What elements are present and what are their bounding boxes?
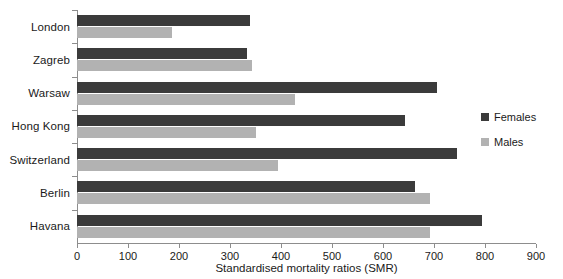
x-axis-tick-label: 900 — [527, 250, 545, 262]
x-axis-tick — [434, 244, 435, 248]
x-axis-tick — [128, 244, 129, 248]
bar-males-warsaw — [77, 94, 295, 105]
bar-males-hong-kong — [77, 127, 256, 138]
bar-females-london — [77, 15, 250, 26]
x-axis-tick — [281, 244, 282, 248]
x-axis-tick — [485, 244, 486, 248]
category-label: Hong Kong — [12, 120, 70, 132]
category-label: Warsaw — [28, 87, 70, 99]
y-axis-tick — [72, 10, 77, 11]
legend-item-females: Females — [481, 111, 559, 123]
x-axis-tick-label: 200 — [170, 250, 188, 262]
y-axis-tick — [72, 210, 77, 211]
x-axis-tick — [383, 244, 384, 248]
y-axis-tick — [72, 143, 77, 144]
category-label: Berlin — [40, 187, 70, 199]
legend-item-males: Males — [481, 136, 559, 148]
category-label: London — [31, 21, 70, 33]
y-axis-tick — [72, 77, 77, 78]
x-axis-tick-label: 500 — [323, 250, 341, 262]
y-axis-tick — [72, 110, 77, 111]
x-axis-tick — [179, 244, 180, 248]
category-label: Zagreb — [33, 54, 70, 66]
y-axis-tick — [72, 43, 77, 44]
x-axis-tick-label: 700 — [425, 250, 443, 262]
bar-males-london — [77, 27, 172, 38]
x-axis-tick-label: 800 — [476, 250, 494, 262]
bar-males-switzerland — [77, 160, 278, 171]
bar-females-hong-kong — [77, 115, 405, 126]
bar-females-havana — [77, 215, 482, 226]
category-row: Havana — [77, 210, 536, 243]
bar-chart: LondonZagrebWarsawHong KongSwitzerlandBe… — [0, 0, 563, 279]
x-axis-tick — [77, 244, 78, 248]
legend-label-males: Males — [494, 136, 523, 148]
category-row: London — [77, 10, 536, 43]
bar-females-warsaw — [77, 82, 437, 93]
legend-label-females: Females — [494, 111, 536, 123]
category-row: Warsaw — [77, 77, 536, 110]
category-row: Berlin — [77, 176, 536, 209]
bar-males-zagreb — [77, 60, 252, 71]
x-axis-tick-label: 600 — [374, 250, 392, 262]
category-label: Havana — [30, 220, 70, 232]
x-axis-title: Standardised mortality ratios (SMR) — [77, 262, 536, 274]
category-row: Zagreb — [77, 43, 536, 76]
category-row: Switzerland — [77, 143, 536, 176]
bar-males-havana — [77, 227, 430, 238]
x-axis-tick — [536, 244, 537, 248]
x-axis-tick-label: 400 — [272, 250, 290, 262]
category-row: Hong Kong — [77, 110, 536, 143]
x-axis-tick — [230, 244, 231, 248]
legend: Females Males — [481, 111, 559, 161]
legend-swatch-males-icon — [481, 138, 489, 146]
x-axis-tick-label: 100 — [119, 250, 137, 262]
bar-females-zagreb — [77, 48, 247, 59]
category-label: Switzerland — [9, 154, 70, 166]
bar-males-berlin — [77, 193, 430, 204]
bar-females-berlin — [77, 181, 415, 192]
x-axis-tick-label: 300 — [221, 250, 239, 262]
legend-swatch-females-icon — [481, 113, 489, 121]
x-axis-tick — [332, 244, 333, 248]
x-axis-tick-label: 0 — [74, 250, 80, 262]
plot-area: LondonZagrebWarsawHong KongSwitzerlandBe… — [77, 10, 536, 243]
bar-females-switzerland — [77, 148, 457, 159]
y-axis-tick — [72, 176, 77, 177]
